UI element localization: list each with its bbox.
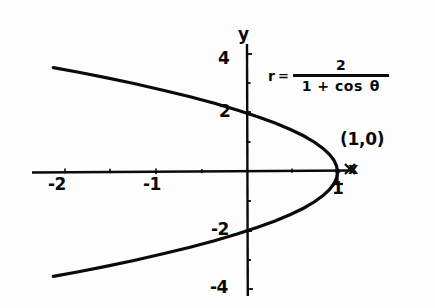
- equation-denominator-row: 1 + cosθ: [300, 77, 382, 93]
- y-tick-label-2: 2: [219, 103, 230, 120]
- equation-denominator: 1 + cos: [302, 78, 363, 94]
- polar-conic-figure: y 4 2 -2 -4 -2 -1 1 x (1,0) r = 2 1 + co…: [0, 0, 435, 308]
- point-annotation-label: (1,0): [340, 131, 384, 148]
- y-axis-line: [247, 44, 248, 296]
- x-tick-label-minus-2: -2: [48, 176, 66, 193]
- equation-lhs: r: [268, 69, 275, 83]
- y-axis-label: y: [238, 26, 249, 43]
- y-tick-label-minus-2: -2: [211, 221, 229, 238]
- x-axis-line: [32, 171, 352, 173]
- plot-canvas: [0, 0, 435, 308]
- equation-numerator: 2: [332, 58, 350, 74]
- polar-equation: r = 2 1 + cosθ: [268, 58, 389, 93]
- x-axis-label: x: [348, 161, 358, 177]
- x-tick-label-1: 1: [332, 180, 343, 197]
- y-tick-label-minus-4: -4: [210, 279, 228, 296]
- equation-equals-sign: =: [278, 69, 289, 82]
- equation-theta-symbol: θ: [370, 78, 380, 94]
- x-tick-label-minus-1: -1: [143, 176, 161, 193]
- y-tick-label-4: 4: [218, 50, 229, 67]
- equation-fraction: 2 1 + cosθ: [293, 58, 389, 93]
